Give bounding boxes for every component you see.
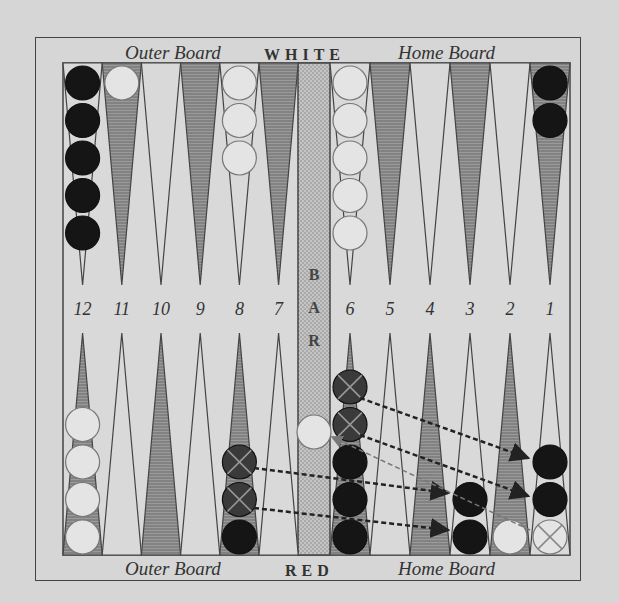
checker-bottom-6	[333, 520, 367, 554]
checker-top-12	[66, 179, 100, 213]
checker-top-12	[66, 141, 100, 175]
point-number-4: 4	[426, 299, 435, 319]
checker-bottom-3	[453, 520, 487, 554]
checker-top-8	[222, 104, 256, 138]
point-number-8: 8	[235, 299, 244, 319]
point-number-6: 6	[346, 299, 355, 319]
checker-bottom-12	[66, 520, 100, 554]
checker-top-6	[333, 104, 367, 138]
checker-bottom-6	[333, 483, 367, 517]
checker-top-11	[105, 66, 139, 100]
checker-top-1	[533, 104, 567, 138]
checker-top-6	[333, 66, 367, 100]
checker-bottom-1	[533, 483, 567, 517]
point-number-7: 7	[274, 299, 284, 319]
bar-letter-a: A	[308, 299, 320, 316]
checker-bottom-12	[66, 408, 100, 442]
checker-bottom-3	[453, 483, 487, 517]
checker-moved-8	[222, 483, 256, 517]
checker-moved-8	[222, 445, 256, 479]
checker-bottom-1	[533, 445, 567, 479]
checker-top-12	[66, 216, 100, 250]
checker-top-12	[66, 104, 100, 138]
checker-bottom-2	[493, 520, 527, 554]
point-number-10: 10	[152, 299, 170, 319]
checker-top-6	[333, 179, 367, 213]
checker-hit-white-1	[533, 520, 567, 554]
point-number-2: 2	[506, 299, 515, 319]
checker-top-12	[66, 66, 100, 100]
point-number-3: 3	[465, 299, 475, 319]
point-number-9: 9	[196, 299, 205, 319]
backgammon-board: B A R 121110987654321	[0, 0, 619, 603]
point-number-5: 5	[386, 299, 395, 319]
point-number-11: 11	[113, 299, 130, 319]
bar-letter-b: B	[309, 266, 320, 283]
checker-bottom-8	[222, 520, 256, 554]
checker-bottom-12	[66, 483, 100, 517]
checker-top-6	[333, 141, 367, 175]
checker-bottom-6	[333, 445, 367, 479]
checker-bar	[297, 415, 331, 449]
point-number-12: 12	[74, 299, 92, 319]
checker-top-6	[333, 216, 367, 250]
checker-top-8	[222, 141, 256, 175]
checker-top-1	[533, 66, 567, 100]
point-number-1: 1	[546, 299, 555, 319]
checker-top-8	[222, 66, 256, 100]
checker-bottom-12	[66, 445, 100, 479]
bar-letter-r: R	[308, 332, 320, 349]
